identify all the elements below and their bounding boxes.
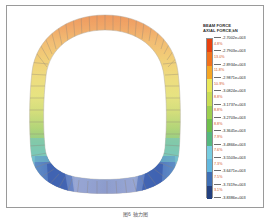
legend-tick-row: -2.8934e+003 [214, 63, 246, 67]
legend-percent-label: 11.8% [214, 69, 224, 73]
legend-tick-row: -3.2703e+003 [214, 116, 246, 120]
legend-percent-label: 8.8% [214, 109, 222, 113]
legend-swatch [207, 132, 212, 145]
legend-tick-dash [214, 37, 221, 38]
legend-tick-value: -2.7903e+003 [222, 49, 246, 53]
legend-percent-label: 7.9% [214, 136, 222, 140]
legend-body: 4.8%13.0%11.8%10.9%8.8%8.8%8.8%7.9%7.6%7… [201, 35, 263, 201]
legend-swatch [207, 52, 212, 65]
legend-tick-value: -3.5503e+003 [222, 156, 246, 160]
figure-caption: 图6 轴力图 [0, 211, 271, 218]
legend-tick-value: -3.1737e+003 [222, 103, 246, 107]
figure-container: BEAM FORCE AXIAL FORCE,kN 4.8%13.0%11.8%… [0, 0, 271, 224]
legend-tick-value: -3.0824e+003 [222, 89, 246, 93]
legend-tick-dash [214, 170, 221, 171]
legend-swatch [207, 79, 212, 92]
legend-tick-value: -2.8934e+003 [222, 63, 246, 67]
legend-color-bar [206, 38, 213, 198]
legend-tick-dash [214, 197, 221, 198]
legend-swatch [207, 92, 212, 105]
legend-swatch [207, 119, 212, 132]
legend-tick-value: -2.7002e+003 [222, 36, 246, 40]
legend-tick-dash [214, 130, 221, 131]
legend-panel: BEAM FORCE AXIAL FORCE,kN 4.8%13.0%11.8%… [201, 24, 263, 202]
legend-tick-dash [214, 184, 221, 185]
legend-tick-dash [214, 90, 221, 91]
legend-tick-row: -3.1737e+003 [214, 103, 246, 107]
legend-tick-value: -3.4866e+003 [222, 143, 246, 147]
legend-tick-dash [214, 50, 221, 51]
legend-tick-dash [214, 144, 221, 145]
legend-swatch [207, 39, 212, 52]
legend-swatch [207, 66, 212, 79]
legend-title: BEAM FORCE AXIAL FORCE,kN [203, 24, 263, 33]
legend-tick-value: -2.9871e+003 [222, 76, 246, 80]
legend-swatch [207, 106, 212, 119]
legend-percent-label: 3.1% [214, 189, 222, 193]
legend-percent-label: 8.8% [214, 123, 222, 127]
ring-invert-band [31, 156, 179, 198]
legend-swatch [207, 172, 212, 185]
legend-percent-label: 10.9% [214, 83, 224, 87]
legend-tick-value: -3.6471e+003 [222, 169, 246, 173]
legend-tick-row: -3.3645e+003 [214, 129, 246, 133]
legend-tick-row: -3.5503e+003 [214, 156, 246, 160]
legend-tick-dash [214, 104, 221, 105]
plot-frame: BEAM FORCE AXIAL FORCE,kN 4.8%13.0%11.8%… [6, 5, 264, 208]
legend-percent-label: 7.5% [214, 176, 222, 180]
legend-percent-label: 13.0% [214, 56, 224, 60]
legend-percent-label: 7.3% [214, 163, 222, 167]
legend-tick-dash [214, 64, 221, 65]
legend-tick-dash [214, 157, 221, 158]
legend-tick-value: -3.2703e+003 [222, 116, 246, 120]
legend-tick-row: -2.7903e+003 [214, 49, 246, 53]
legend-tick-value: -3.7419e+003 [222, 183, 246, 187]
legend-percent-label: 4.8% [214, 43, 222, 47]
legend-percent-label: 7.6% [214, 149, 222, 153]
legend-tick-row: -2.7002e+003 [214, 36, 246, 40]
legend-tick-dash [214, 117, 221, 118]
tunnel-ring-model [7, 6, 203, 207]
legend-swatch [207, 146, 212, 159]
legend-percent-label: 8.8% [214, 96, 222, 100]
legend-tick-row: -3.6471e+003 [214, 169, 246, 173]
legend-tick-row: -3.4866e+003 [214, 143, 246, 147]
legend-tick-row: -3.0824e+003 [214, 89, 246, 93]
legend-tick-value: -3.3645e+003 [222, 129, 246, 133]
ring-springline-band [29, 138, 181, 162]
legend-tick-value: -3.8386e+003 [222, 196, 246, 200]
legend-tick-row: -2.9871e+003 [214, 76, 246, 80]
legend-tick-row: -3.8386e+003 [214, 196, 246, 200]
legend-swatch [207, 186, 212, 199]
legend-tick-row: -3.7419e+003 [214, 183, 246, 187]
legend-swatch [207, 159, 212, 172]
legend-tick-dash [214, 77, 221, 78]
